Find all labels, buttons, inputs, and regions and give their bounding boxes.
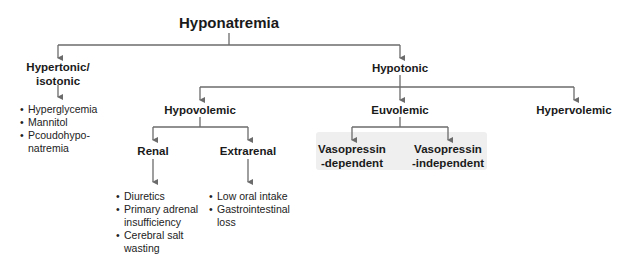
node-hypertonic-line1: Hypertonic/: [26, 60, 89, 74]
node-vasopressin-dependent: Vasopressin -dependent: [318, 142, 386, 170]
node-euvolemic: Euvolemic: [371, 103, 429, 117]
vaso-indep-line2: -independent: [412, 156, 484, 170]
node-extrarenal: Extrarenal: [220, 144, 276, 158]
node-vasopressin-independent: Vasopressin -independent: [412, 142, 484, 170]
list-item: Diuretics: [116, 190, 208, 203]
vaso-dep-line1: Vasopressin: [318, 142, 386, 156]
node-hypervolemic: Hypervolemic: [536, 103, 611, 117]
node-hypovolemic: Hypovolemic: [164, 103, 236, 117]
vaso-dep-line2: -dependent: [318, 156, 386, 170]
extrarenal-causes-list: Low oral intake Gastrointestinal loss: [209, 190, 299, 229]
list-item: Gastrointestinal loss: [209, 203, 299, 229]
vaso-indep-line1: Vasopressin: [412, 142, 484, 156]
list-item: Primary adrenal insufficiency: [116, 203, 208, 229]
list-item: Hyperglycemia: [20, 103, 130, 116]
node-renal: Renal: [137, 144, 168, 158]
list-item: Mannitol: [20, 116, 130, 129]
node-hypertonic-isotonic: Hypertonic/ isotonic: [26, 60, 89, 88]
hypertonic-causes-list: Hyperglycemia Mannitol Pcoudohypo- natre…: [20, 103, 130, 155]
list-item: Low oral intake: [209, 190, 299, 203]
renal-causes-list: Diuretics Primary adrenal insufficiency …: [116, 190, 208, 255]
list-item: Pcoudohypo- natremia: [20, 129, 130, 155]
list-item: Cerebral salt wasting: [116, 229, 208, 255]
node-hypotonic: Hypotonic: [372, 61, 428, 75]
node-hypertonic-line2: isotonic: [26, 74, 89, 88]
node-hyponatremia: Hyponatremia: [179, 14, 279, 32]
